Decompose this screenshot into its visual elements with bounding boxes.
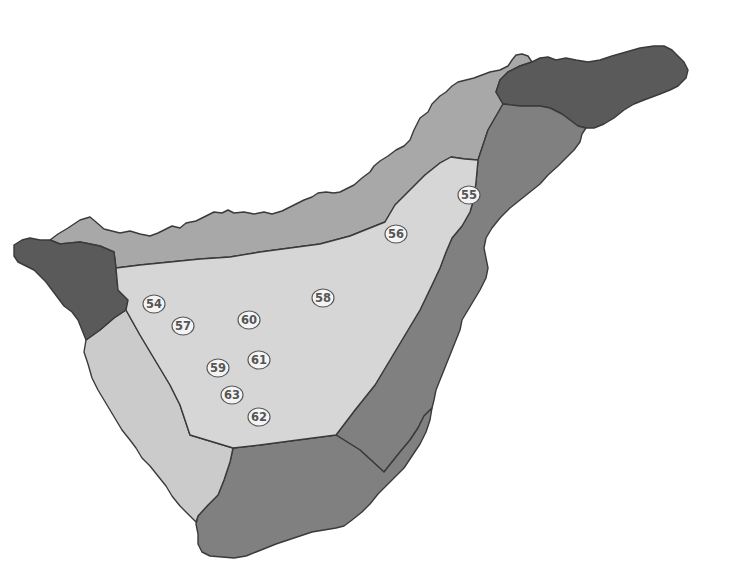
svg-text:61: 61 (251, 353, 267, 367)
svg-text:59: 59 (210, 361, 226, 375)
svg-text:58: 58 (315, 291, 331, 305)
site-marker-54[interactable]: 54 (143, 295, 165, 313)
svg-text:63: 63 (224, 388, 240, 402)
island-map: 54 55 56 57 58 59 60 61 62 63 (0, 0, 731, 583)
site-marker-58[interactable]: 58 (312, 289, 334, 307)
site-marker-57[interactable]: 57 (172, 317, 194, 335)
site-marker-59[interactable]: 59 (207, 359, 229, 377)
site-marker-60[interactable]: 60 (238, 311, 260, 329)
svg-text:54: 54 (146, 297, 162, 311)
svg-text:60: 60 (241, 313, 257, 327)
svg-text:62: 62 (251, 410, 267, 424)
site-marker-62[interactable]: 62 (248, 408, 270, 426)
svg-text:55: 55 (461, 188, 477, 202)
site-marker-61[interactable]: 61 (248, 351, 270, 369)
svg-text:56: 56 (388, 227, 404, 241)
svg-text:57: 57 (175, 319, 191, 333)
site-marker-56[interactable]: 56 (385, 225, 407, 243)
site-marker-63[interactable]: 63 (221, 386, 243, 404)
site-marker-55[interactable]: 55 (458, 186, 480, 204)
